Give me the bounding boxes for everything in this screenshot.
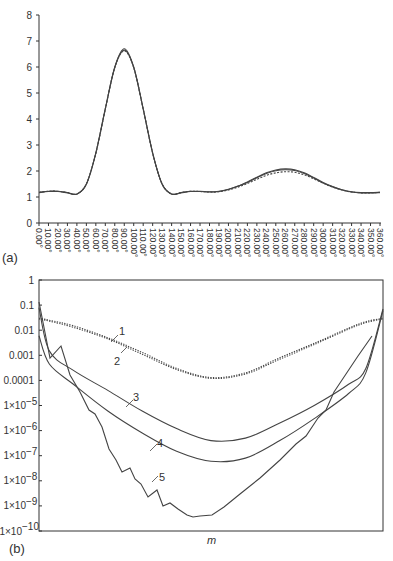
y-tick-label: 1×10 [3, 425, 26, 436]
x-tick-label: 90.00° [119, 228, 129, 253]
x-tick-label: 100.00° [129, 228, 139, 257]
annotation-3-leader [126, 400, 133, 407]
panel-a-y-ticks: 012345678 [26, 10, 39, 229]
y-tick-label: 1×10 [3, 400, 26, 411]
annotation-4-leader [150, 444, 157, 451]
y-tick-label: 0.01 [15, 325, 35, 336]
panel-a-label: (a) [2, 250, 18, 265]
x-tick-label: 300.00° [318, 228, 328, 257]
curve-1 [39, 318, 383, 377]
y-tick-label: 6 [26, 62, 32, 73]
x-tick-label: 340.00° [356, 228, 366, 257]
x-tick-label: 290.00° [309, 228, 319, 257]
x-tick-label: 130.00° [157, 228, 167, 257]
y-tick-label: 7 [26, 36, 32, 47]
x-tick-label: 330.00° [347, 228, 357, 257]
x-tick-label: 320.00° [337, 228, 347, 257]
x-tick-label: 20.00° [53, 228, 63, 253]
y-tick-label: 1 [26, 192, 32, 203]
panel-b-curves [39, 302, 383, 517]
annotation-2: 2 [114, 355, 120, 367]
panel-b-y-ticks: 10.10.010.0010.00011×10−51×10−61×10−71×1… [0, 275, 42, 537]
x-tick-label: 200.00° [223, 228, 233, 257]
y-tick-label: 3 [26, 140, 32, 151]
x-tick-label: 60.00° [91, 228, 101, 253]
x-tick-label: 350.00° [366, 228, 376, 257]
y-tick-exponent: −8 [26, 471, 38, 482]
panel-b-label: (b) [9, 541, 25, 556]
x-tick-label: 180.00° [205, 228, 215, 257]
panel-b-x-label: m [207, 534, 216, 546]
x-tick-label: 190.00° [214, 228, 224, 257]
x-tick-label: 250.00° [271, 228, 281, 257]
curve-2 [39, 319, 383, 379]
x-tick-label: 270.00° [290, 228, 300, 257]
x-tick-label: 110.00° [138, 228, 148, 257]
curve-4 [39, 311, 383, 462]
x-tick-label: 170.00° [195, 228, 205, 257]
y-tick-exponent: −9 [26, 496, 38, 507]
x-tick-label: 360.00° [375, 228, 385, 257]
y-tick-label: 4 [26, 114, 32, 125]
y-tick-exponent: −10 [22, 521, 39, 532]
y-tick-label: 0.1 [20, 300, 34, 311]
x-tick-label: 10.00° [43, 228, 53, 253]
annotation-1: 1 [119, 325, 125, 337]
panel-a-x-ticks: 0.00°10.00°20.00°30.00°40.00°50.00°60.00… [34, 223, 385, 257]
y-tick-label: 1×10 [3, 500, 26, 511]
y-tick-label: 1×10 [3, 475, 26, 486]
annotation-2-leader [121, 347, 127, 353]
x-tick-label: 210.00° [233, 228, 243, 257]
x-tick-label: 150.00° [176, 228, 186, 257]
annotation-5-leader [152, 476, 158, 482]
annotation-5: 5 [159, 471, 165, 483]
panel-a: 012345678 0.00°10.00°20.00°30.00°40.00°5… [2, 10, 385, 266]
panel-b-frame [39, 280, 383, 531]
y-tick-label: 0.0001 [3, 375, 34, 386]
y-tick-label: 0.001 [9, 350, 34, 361]
x-tick-label: 140.00° [167, 228, 177, 257]
x-tick-label: 50.00° [81, 228, 91, 253]
annotation-4: 4 [157, 437, 163, 449]
x-tick-label: 230.00° [252, 228, 262, 257]
curve-3 [39, 51, 380, 194]
x-tick-label: 280.00° [299, 228, 309, 257]
y-tick-label: 5 [26, 88, 32, 99]
y-tick-label: 0 [26, 218, 32, 229]
x-tick-label: 240.00° [261, 228, 271, 257]
curve-5 [39, 302, 372, 517]
y-tick-label: 1×10 [3, 450, 26, 461]
panel-a-curves [39, 49, 380, 195]
y-tick-label: 1 [28, 275, 34, 286]
x-tick-label: 310.00° [328, 228, 338, 257]
x-tick-label: 220.00° [242, 228, 252, 257]
y-tick-exponent: −5 [26, 396, 38, 407]
curve-3 [39, 308, 383, 442]
y-tick-label: 2 [26, 166, 32, 177]
x-tick-label: 0.00° [34, 228, 44, 248]
y-tick-label: 1×10 [0, 526, 22, 537]
figure: 012345678 0.00°10.00°20.00°30.00°40.00°5… [0, 0, 393, 561]
x-tick-label: 40.00° [72, 228, 82, 253]
y-tick-exponent: −6 [26, 421, 38, 432]
y-tick-label: 8 [26, 10, 32, 21]
x-tick-label: 70.00° [100, 228, 110, 253]
annotation-3: 3 [133, 391, 139, 403]
x-tick-label: 30.00° [62, 228, 72, 253]
x-tick-label: 80.00° [110, 228, 120, 253]
x-tick-label: 260.00° [280, 228, 290, 257]
x-tick-label: 160.00° [186, 228, 196, 257]
y-tick-exponent: −7 [26, 446, 38, 457]
panel-b: 10.10.010.0010.00011×10−51×10−61×10−71×1… [0, 275, 383, 557]
x-tick-label: 120.00° [148, 228, 158, 257]
